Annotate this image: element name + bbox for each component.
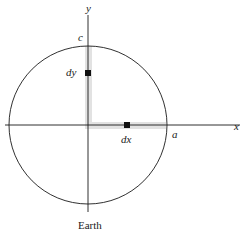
point-a-label: a <box>172 128 178 140</box>
point-c-label: c <box>78 31 83 43</box>
dy-element <box>85 70 91 76</box>
dx-label: dx <box>121 133 132 145</box>
x-axis-label: x <box>233 120 239 132</box>
vertical-strip <box>85 46 92 128</box>
y-axis-label: y <box>85 2 91 14</box>
earth-caption: Earth <box>78 219 102 231</box>
dy-label: dy <box>66 66 77 78</box>
dx-element <box>124 122 130 128</box>
earth-diagram: y x c a dy dx Earth <box>0 0 249 242</box>
